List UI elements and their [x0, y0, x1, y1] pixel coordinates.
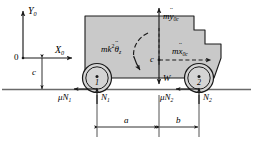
free-body-diagram: Y0 X0 0 c c my0c mx0c mk2θz W 1 2 μN1 N1… [0, 0, 253, 141]
normal-rear-label: N2 [203, 93, 212, 102]
normal-front-label: N1 [101, 93, 110, 102]
wheel-2-label: 2 [197, 79, 201, 87]
friction-front-label: μN1 [58, 93, 71, 102]
y-axis-label: Y0 [28, 6, 37, 16]
friction-rear-label: μN2 [160, 93, 173, 102]
wheel-1-label: 1 [95, 79, 99, 87]
dimension-a-label: a [124, 116, 129, 125]
rotational-inertia-label: mk2θz [101, 45, 121, 54]
horizontal-inertia-label: mx0c [172, 47, 188, 56]
dimension-b-label: b [176, 116, 181, 125]
coordinate-axes [22, 11, 72, 59]
x-axis-label: X0 [55, 45, 64, 55]
center-of-mass-label: c [150, 55, 154, 64]
origin-dot [22, 57, 25, 60]
weight-label: W [163, 74, 171, 83]
dimension-c-label: c [32, 68, 36, 77]
origin-label: 0 [14, 53, 19, 62]
vertical-inertia-label: my0c [163, 12, 179, 21]
dimension-witness-lines [97, 95, 199, 137]
